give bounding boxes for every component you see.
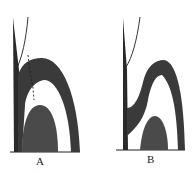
- figure-a-label: A: [36, 155, 44, 167]
- figure-a: [10, 17, 80, 152]
- figure-b-label: B: [147, 153, 154, 165]
- diagram-canvas: A B: [0, 0, 195, 174]
- figure-a-inner-dome: [22, 105, 58, 152]
- diagram-svg: [0, 0, 195, 174]
- figure-b-curve: [126, 17, 140, 67]
- figure-b: [116, 17, 185, 150]
- figure-b-inner-dome: [140, 116, 168, 150]
